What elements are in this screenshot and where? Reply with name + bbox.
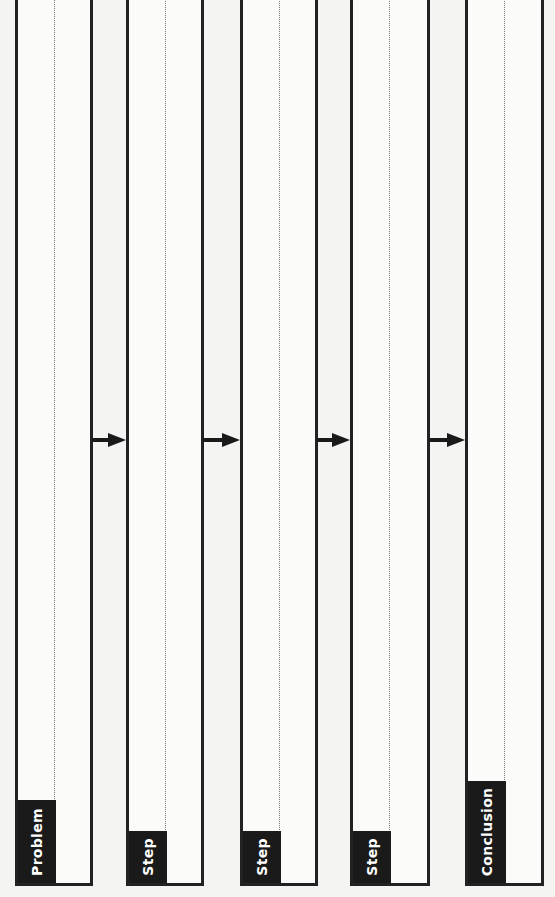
dotted-divider	[389, 0, 390, 834]
label-text: Step	[140, 838, 156, 876]
dotted-divider	[504, 0, 505, 784]
label-step-1: Step	[129, 831, 167, 883]
arrow-right-icon	[317, 433, 350, 447]
dotted-divider	[279, 0, 280, 834]
label-step-3: Step	[353, 831, 391, 883]
column-step-1: Step	[126, 0, 204, 886]
label-text: Step	[254, 838, 270, 876]
arrow-right-icon	[203, 433, 240, 447]
column-problem: Problem	[15, 0, 93, 886]
label-step-2: Step	[243, 831, 281, 883]
label-text: Conclusion	[479, 788, 495, 877]
column-step-2: Step	[240, 0, 318, 886]
label-conclusion: Conclusion	[468, 781, 506, 883]
column-step-3: Step	[350, 0, 430, 886]
arrow-right-icon	[429, 433, 465, 447]
label-text: Step	[364, 838, 380, 876]
dotted-divider	[165, 0, 166, 834]
label-text: Problem	[29, 808, 45, 876]
column-conclusion: Conclusion	[465, 0, 544, 886]
dotted-divider	[54, 0, 55, 803]
arrow-right-icon	[92, 433, 126, 447]
label-problem: Problem	[18, 800, 56, 883]
